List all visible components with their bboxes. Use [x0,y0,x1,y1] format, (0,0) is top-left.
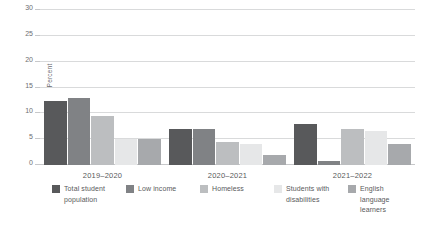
legend-swatch [52,185,60,193]
x-axis-tick-label: 2021–2022 [290,171,415,180]
plot-area: Percent 051015202530 2019–20202020–20212… [40,10,415,165]
bar [341,129,364,165]
y-axis-tick-label: 20 [25,56,33,63]
bar [68,98,91,165]
bar [365,131,388,165]
bar [193,129,216,165]
bar [138,139,161,165]
y-axis-tick-label: 15 [25,82,33,89]
legend-swatch [274,185,282,193]
legend-label: Students with disabilities [286,184,338,205]
legend-label: Homeless [212,184,244,195]
legend: Total student populationLow incomeHomele… [52,184,422,216]
bar [44,101,67,165]
y-axis-tick-label: 0 [29,159,33,166]
legend-item[interactable]: English language learners [348,184,422,216]
bar [294,124,317,165]
legend-item[interactable]: Total student population [52,184,126,216]
y-axis-tick-label: 30 [25,4,33,11]
bar [240,144,263,165]
bar [388,144,411,165]
x-axis-tick-label: 2020–2021 [165,171,290,180]
bar [91,116,114,165]
bar-groups: 2019–20202020–20212021–2022 [40,10,415,165]
bars [294,10,411,165]
legend-item[interactable]: Homeless [200,184,274,216]
bars [169,10,286,165]
bars [44,10,161,165]
bar [263,155,286,165]
bar [318,161,341,165]
legend-label: English language learners [360,184,412,216]
y-axis-tick-label: 25 [25,30,33,37]
legend-item[interactable]: Low income [126,184,200,216]
legend-swatch [126,185,134,193]
y-axis-tick-label: 5 [29,133,33,140]
bar-group: 2019–2020 [40,10,165,165]
legend-swatch [348,185,356,193]
bar [115,139,138,165]
bar-group: 2021–2022 [290,10,415,165]
bar [216,142,239,165]
bar-chart: Percent 051015202530 2019–20202020–20212… [0,0,427,226]
bar-group: 2020–2021 [165,10,290,165]
legend-item[interactable]: Students with disabilities [274,184,348,216]
x-axis-tick-label: 2019–2020 [40,171,165,180]
legend-label: Low income [138,184,176,195]
bar [169,129,192,165]
legend-swatch [200,185,208,193]
legend-label: Total student population [64,184,116,205]
y-axis-tick-label: 10 [25,107,33,114]
